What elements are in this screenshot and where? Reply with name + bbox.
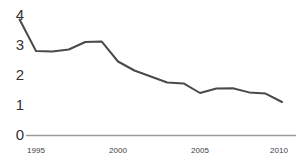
x-tick-label-2010: 2010 <box>259 146 299 155</box>
x-tick-label-1995: 1995 <box>16 146 56 155</box>
x-tick-label-2000: 2000 <box>98 146 138 155</box>
x-tick-label-2005: 2005 <box>180 146 220 155</box>
x-axis-tick-labels: 1995 2000 2005 2010 <box>0 0 304 162</box>
line-chart: 4 3 2 1 0 1995 2000 2005 2010 <box>0 0 304 162</box>
